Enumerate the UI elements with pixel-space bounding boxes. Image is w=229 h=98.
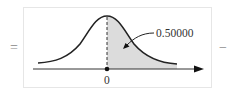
axis-zero-label: 0	[104, 74, 110, 86]
area-label: 0.50000	[156, 27, 194, 39]
normal-curve-diagram: 0.50000 0	[0, 0, 229, 98]
minus-sign: −	[219, 40, 227, 56]
shaded-area	[107, 16, 177, 69]
axis-arrowhead-icon	[194, 66, 204, 73]
mean-point	[105, 67, 110, 72]
